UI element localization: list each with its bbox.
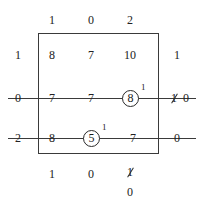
row2-right-revised-value: 0 — [180, 92, 192, 104]
row1-cell1: 8 — [45, 49, 59, 61]
row3-cell1: 8 — [45, 132, 59, 144]
row1-left-label: 1 — [11, 49, 25, 61]
row2-left-label: 0 — [11, 92, 25, 104]
row3-left-label: 2 — [11, 132, 25, 144]
top-label-col3: 2 — [123, 14, 137, 26]
row1-right-label: 1 — [170, 49, 184, 61]
row1-cell3: 10 — [119, 49, 141, 61]
circled-value-5: 5 — [83, 130, 100, 147]
bottom-col3-revised-value: 0 — [124, 186, 136, 198]
matrix-tableau-diagram: 1 0 2 1 8 7 10 1 0 7 7 8 1 1 0 2 8 5 1 7… — [0, 0, 202, 207]
crossing-line-2 — [8, 138, 196, 139]
bottom-label-col2: 0 — [84, 168, 98, 180]
circled-5-superscript: 1 — [102, 123, 107, 132]
row3-right-label: 0 — [170, 132, 184, 144]
circled-8-superscript: 1 — [141, 83, 146, 92]
top-label-col1: 1 — [45, 14, 59, 26]
crossing-line-1 — [8, 98, 196, 99]
bottom-label-col1: 1 — [45, 168, 59, 180]
row2-cell1: 7 — [45, 92, 59, 104]
row1-cell2: 7 — [84, 49, 98, 61]
row3-cell3: 7 — [126, 132, 140, 144]
top-label-col2: 0 — [84, 14, 98, 26]
circled-value-8: 8 — [122, 90, 139, 107]
row2-cell2: 7 — [84, 92, 98, 104]
